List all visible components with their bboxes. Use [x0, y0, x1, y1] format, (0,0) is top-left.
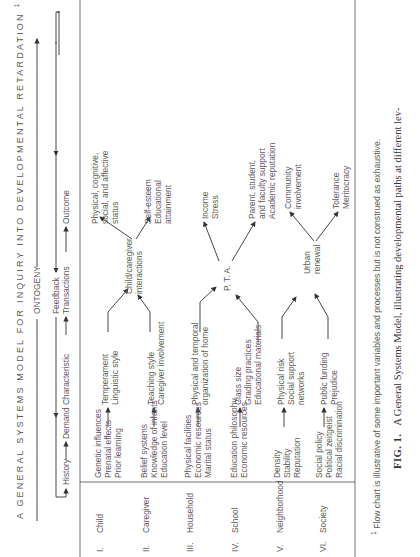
level-numeral: VI. — [318, 541, 328, 552]
demand-household: Physical and temporalorganization of hom… — [190, 323, 210, 405]
outcome-tolerance: ToleranceMeritocracy — [331, 166, 351, 209]
feedback-label: Feedback — [51, 277, 61, 314]
transaction-pta: P. T. A. — [222, 266, 232, 291]
history-neighborhood: DensityStabilityReputation — [272, 437, 303, 478]
ontogeny-label: ONTOGENY — [32, 266, 42, 314]
level-numeral: II. — [141, 545, 151, 552]
outcome-support: Parent, student,and faculty supportAcade… — [247, 143, 278, 219]
history-society: Social policyPolitical zeitgeistRacial d… — [314, 401, 345, 478]
level-name-household: Household — [185, 493, 195, 533]
rotated-figure-page: A GENERAL SYSTEMS MODEL FOR INQUIRY INTO… — [0, 0, 420, 557]
stage-transactions: Transactions — [61, 266, 71, 314]
history-household: Physical facilitiesEconomic resourcesMar… — [183, 402, 214, 478]
level-numeral: IV. — [230, 542, 240, 552]
level-name-school: School — [230, 507, 240, 533]
level-numeral: I. — [95, 547, 105, 552]
demand-caregiver: Teaching styleCaregiver involvement — [146, 322, 166, 405]
stage-outcome: Outcome — [61, 190, 71, 224]
demand-school: Class sizeGrading practicesEducational m… — [233, 325, 264, 405]
level-name-neighborhood: Neighborhood — [275, 480, 285, 533]
footnote: 1 Flow chart is illustrative of some imp… — [370, 139, 382, 535]
demand-neighborhood: Physical riskSocial supportnetworks — [276, 352, 307, 405]
level-numeral: V. — [275, 545, 285, 552]
stage-history: History — [61, 459, 71, 485]
level-numeral: III. — [185, 542, 195, 552]
history-child: Genetic influencesPrenatal effectsPrior … — [93, 409, 124, 478]
level-name-society: Society — [318, 506, 328, 533]
outcome-community: Communityinvolvement — [283, 164, 303, 209]
history-caregiver: Belief systemsKnowledge of infantsEducat… — [139, 400, 170, 478]
figure-caption: FIG. 1. A General Systems Model, illustr… — [392, 108, 403, 469]
level-name-child: Child — [95, 514, 105, 533]
demand-child: TemperamentLinguistic style — [100, 351, 120, 405]
transaction-urban-renewal: Urbanrenewal — [302, 245, 322, 274]
demand-society: Public fundingPrejudice — [319, 352, 339, 405]
outcome-status: Physical, cognitive,social, and affectiv… — [90, 151, 121, 224]
history-school: Education philosophyEconomic resources — [229, 398, 249, 478]
stage-demand-characteristic: Demand Characteristic — [61, 354, 71, 439]
outcome-income: IncomeStress — [200, 192, 220, 219]
outcome-self-esteem: Self-esteemEducationalattainment — [143, 179, 174, 224]
transaction-child-caregiver: Child/caregiverinteractions — [124, 238, 144, 294]
level-name-caregiver: Caregiver — [141, 497, 151, 533]
